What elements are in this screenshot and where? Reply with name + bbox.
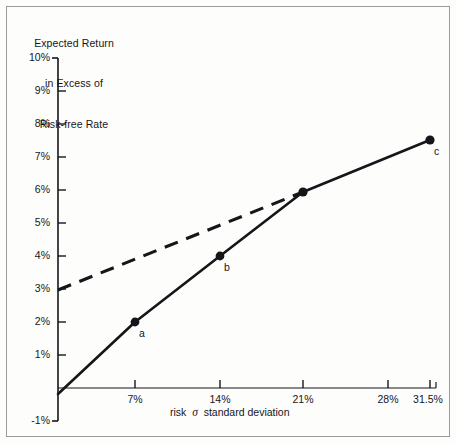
annotation-label-a: a bbox=[139, 327, 145, 339]
y-tick-label-2pct: 2% bbox=[16, 315, 50, 327]
series-dashed-line bbox=[58, 192, 303, 290]
y-tick-label-3pct: 3% bbox=[16, 282, 50, 294]
y-axis-title-line-1: Expected Return bbox=[14, 37, 134, 50]
x-tick-label-21pct: 21% bbox=[281, 393, 325, 405]
data-point-a bbox=[131, 318, 140, 327]
y-tick-label-7pct: 7% bbox=[16, 150, 50, 162]
x-axis-ticks bbox=[135, 380, 430, 388]
y-tick-label-5pct: 5% bbox=[16, 216, 50, 228]
annotation-label-b: b bbox=[224, 261, 230, 273]
series-solid-line bbox=[58, 140, 430, 394]
chart-page: Expected Return in Excess of Risk-free R… bbox=[0, 0, 456, 445]
y-tick-label-4pct: 4% bbox=[16, 249, 50, 261]
annotation-label-c: c bbox=[434, 145, 439, 157]
y-tick-label-8pct: 8% bbox=[16, 117, 50, 129]
data-point-kink bbox=[298, 187, 307, 196]
x-axis-label-prefix: risk bbox=[170, 406, 192, 418]
x-tick-label-7pct: 7% bbox=[113, 393, 157, 405]
x-axis-label-suffix: standard deviation bbox=[198, 406, 290, 418]
y-tick-label-9pct: 9% bbox=[16, 84, 50, 96]
y-tick-label-10pct: 10% bbox=[16, 51, 50, 63]
data-point-b bbox=[216, 252, 225, 261]
data-point-c bbox=[425, 135, 434, 144]
y-tick-label-neg1pct: -1% bbox=[16, 414, 50, 426]
x-tick-label-31-5pct: 31.5% bbox=[406, 393, 450, 405]
x-tick-label-28pct: 28% bbox=[366, 393, 410, 405]
x-tick-label-14pct: 14% bbox=[198, 393, 242, 405]
x-axis-label: risk σ standard deviation bbox=[170, 406, 290, 418]
y-tick-label-1pct: 1% bbox=[16, 348, 50, 360]
y-tick-label-6pct: 6% bbox=[16, 183, 50, 195]
